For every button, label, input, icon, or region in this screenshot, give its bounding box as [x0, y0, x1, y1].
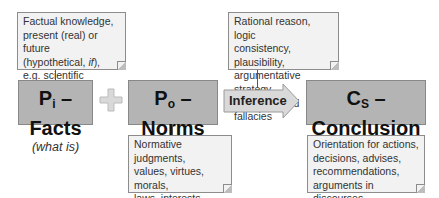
conclusion-title: CS – Conclusion [307, 86, 425, 140]
facts-note-line-3: (hypothetical, if), [23, 56, 120, 70]
conclusion-note-line-2: decisions, advises, [313, 152, 419, 166]
conclusion-note-line-4: arguments in discourses [313, 179, 419, 198]
facts-subtitle: (what is) [19, 140, 92, 154]
norms-note-line-2: values, virtues, morals, [134, 165, 226, 192]
inference-label: Inference [229, 93, 287, 108]
inference-note: Rational reason, logic consistency, plau… [228, 12, 339, 70]
folded-corner-icon [416, 184, 425, 193]
inference-note-line-1: Rational reason, logic [234, 15, 333, 42]
facts-note: Factual knowledge, present (real) or fut… [17, 12, 126, 70]
folded-corner-icon [330, 61, 339, 70]
conclusion-note-line-1: Orientation for actions, [313, 138, 419, 152]
plus-icon [99, 88, 123, 112]
facts-note-line-1: Factual knowledge, [23, 15, 120, 29]
norms-note-line-1: Normative judgments, [134, 138, 226, 165]
folded-corner-icon [117, 61, 126, 70]
norms-title: Po – Norms [129, 86, 217, 140]
facts-box: Pi – Facts (what is) [18, 80, 93, 125]
norms-note-line-3: laws, interests, [134, 192, 226, 198]
conclusion-note-line-3: recommendations, [313, 165, 419, 179]
facts-title: Pi – Facts [19, 86, 92, 140]
facts-note-line-2: present (real) or future [23, 29, 120, 56]
norms-box: Po – Norms (what ought) [128, 80, 218, 125]
folded-corner-icon [223, 184, 232, 193]
conclusion-note: Orientation for actions, decisions, advi… [307, 135, 425, 193]
conclusion-box: CS – Conclusion (what should) [306, 80, 426, 125]
inference-note-line-2: consistency, plausibility, [234, 42, 333, 69]
norms-note: Normative judgments, values, virtues, mo… [128, 135, 232, 193]
